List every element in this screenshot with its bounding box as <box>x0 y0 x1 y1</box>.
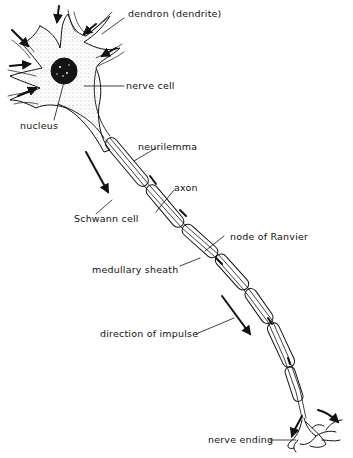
neuron-diagram: dendron (dendrite) nerve cell nucleus ne… <box>0 0 353 458</box>
label-nerve-ending: nerve ending <box>208 434 273 445</box>
label-medullary-sheath: medullary sheath <box>92 264 178 275</box>
label-direction-of-impulse: direction of impulse <box>100 328 198 339</box>
label-node-of-ranvier: node of Ranvier <box>230 231 308 242</box>
nerve-ending-branches <box>288 418 342 452</box>
nucleus <box>51 58 77 84</box>
label-axon: axon <box>174 182 198 193</box>
label-nucleus: nucleus <box>20 120 58 131</box>
label-schwann-cell: Schwann cell <box>74 213 139 224</box>
impulse-arrows <box>86 152 338 436</box>
axon-segments <box>103 135 306 418</box>
label-dendron: dendron (dendrite) <box>128 8 222 19</box>
label-neurilemma: neurilemma <box>138 141 197 152</box>
label-nerve-cell: nerve cell <box>126 80 175 91</box>
